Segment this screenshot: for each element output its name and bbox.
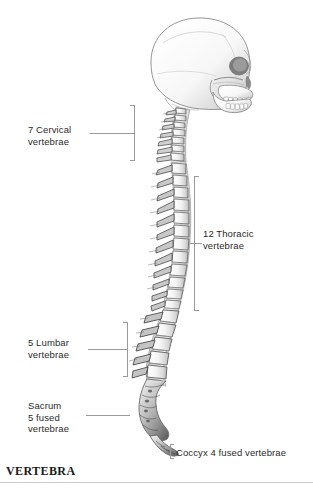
figure-caption: VERTEBRA [6, 464, 75, 479]
label-thoracic-vertebrae: 12 Thoracic vertebrae [203, 228, 254, 251]
lumbar-leader-line [88, 349, 128, 350]
sacrum-group [139, 379, 169, 441]
sacrum-leader-line [86, 415, 130, 416]
label-cervical-vertebrae: 7 Cervical vertebrae [28, 124, 71, 147]
cervical-bracket-tick-bottom [130, 160, 135, 161]
label-sacrum: Sacrum 5 fused vertebrae [28, 400, 69, 435]
cervical-leader-line [90, 133, 135, 134]
cervical-bracket-tick-top [130, 105, 135, 106]
label-coccyx: Coccyx 4 fused vertebrae [176, 447, 286, 459]
lumbar-bracket-tick-bottom [123, 376, 128, 377]
skull-group [151, 18, 253, 113]
thoracic-bracket-tick-bottom [194, 310, 199, 311]
figure-vertebra: 7 Cervical vertebrae 12 Thoracic vertebr… [0, 0, 313, 489]
lumbar-vertebrae-group [129, 308, 179, 386]
coccyx-bracket-tick-bottom [170, 458, 174, 459]
coccyx-bracket [170, 444, 171, 459]
cervical-vertebrae-group [157, 107, 190, 162]
thoracic-bracket-tick-top [194, 176, 199, 177]
thoracic-vertebrae-group [147, 162, 191, 311]
thoracic-leader-line [189, 243, 202, 244]
lumbar-bracket-tick-top [123, 322, 128, 323]
coccyx-bracket-tick-top [170, 444, 174, 445]
caption-divider [0, 482, 313, 483]
label-lumbar-vertebrae: 5 Lumbar vertebrae [28, 337, 69, 360]
